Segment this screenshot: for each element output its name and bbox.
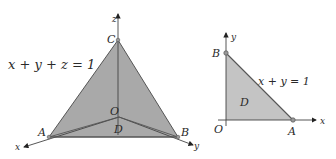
y-axis-label: y [193,141,200,151]
origin-label: O [214,123,223,136]
x-axis-label: x [15,142,20,152]
point-o-label: O [110,105,119,118]
z-axis-label: z [111,14,117,24]
point-a-label: A [37,126,46,139]
point-b-label: B [180,126,189,139]
region-d-right-label: D [239,96,249,109]
point-c-label: C [107,33,116,46]
region-d-label: D [113,123,123,136]
point-b-right-marker [224,51,228,55]
point-a-right-label: A [287,125,296,138]
x-axis-right-label: x [320,116,325,126]
point-c-marker [116,38,120,42]
tetrahedron-figure: x + y + z = 1 C A B O D z x y [8,14,200,152]
point-a-marker [47,135,51,139]
point-b-right-label: B [211,47,220,60]
diagram-canvas: x + y + z = 1 C A B O D z x y B A O D y … [0,0,336,159]
y-axis-right-label: y [230,32,237,42]
line-equation-label: x + y = 1 [258,75,310,88]
triangle-region-figure: B A O D y x x + y = 1 [211,32,325,138]
equation-label: x + y + z = 1 [8,57,95,72]
point-a-right-marker [291,118,295,122]
point-b-marker [176,135,180,139]
